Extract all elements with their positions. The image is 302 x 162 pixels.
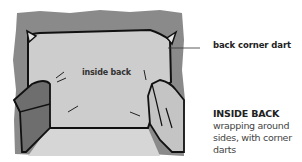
caption: INSIDE BACK wrapping around sides, with … (213, 108, 302, 156)
caption-body: wrapping around sides, with corner darts (213, 120, 302, 156)
chair-inside-back-illustration (0, 0, 200, 162)
caption-title: INSIDE BACK (213, 108, 302, 120)
inside-back-label: inside back (82, 68, 131, 77)
back-corner-dart-label: back corner dart (213, 40, 291, 50)
seat (28, 128, 160, 156)
